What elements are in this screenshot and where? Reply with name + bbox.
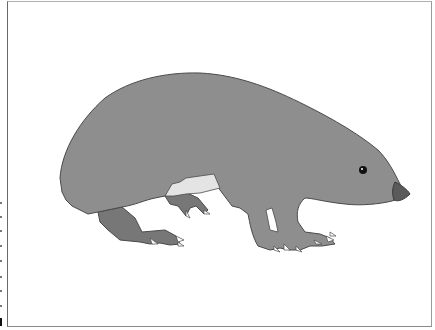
hind-leg xyxy=(98,207,180,245)
eye xyxy=(359,166,367,174)
animal-illustration xyxy=(0,0,435,330)
nose xyxy=(393,182,410,201)
